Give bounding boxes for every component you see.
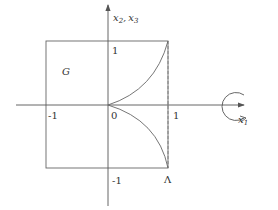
x1-axis-label: x1 xyxy=(238,114,248,127)
region-square xyxy=(46,41,168,168)
tick-x-pos: 1 xyxy=(173,110,179,121)
tick-origin: 0 xyxy=(111,110,117,121)
region-label-g: G xyxy=(62,66,70,77)
tick-x-neg: -1 xyxy=(48,110,58,121)
corner-label-lambda: Λ xyxy=(163,174,172,185)
tick-y-neg: -1 xyxy=(112,175,122,186)
diagram-canvas: x1 x2,x3 1 -1 -1 0 1 G Λ xyxy=(0,0,278,210)
tick-y-pos: 1 xyxy=(112,45,118,56)
x2-x3-axis-label: x2,x3 xyxy=(113,12,139,25)
